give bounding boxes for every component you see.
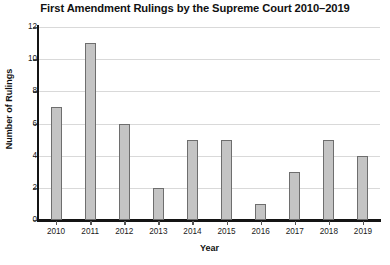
x-tick-mark [56, 221, 57, 225]
y-tick-label: 4 [0, 152, 37, 160]
bar-2010 [51, 107, 62, 220]
bar-2015 [221, 140, 232, 220]
x-tick-mark [295, 221, 296, 225]
bar-2017 [289, 172, 300, 220]
y-tick-label: 12 [0, 23, 37, 31]
y-tick-label: 10 [0, 55, 37, 63]
bar-2014 [187, 140, 198, 220]
bar-2012 [119, 124, 130, 221]
x-axis-label: Year [39, 243, 380, 253]
x-tick-mark [227, 221, 228, 225]
chart-title: First Amendment Rulings by the Supreme C… [0, 2, 390, 14]
plot-area [39, 27, 380, 220]
y-tick-label: 0 [0, 216, 37, 224]
bar-2019 [357, 156, 368, 220]
y-tick-label: 2 [0, 184, 37, 192]
bar-2016 [255, 204, 266, 220]
y-tick-label: 8 [0, 87, 37, 95]
bar-2011 [85, 43, 96, 220]
x-tick-mark [90, 221, 91, 225]
x-tick-mark [329, 221, 330, 225]
bar-chart-figure: First Amendment Rulings by the Supreme C… [0, 0, 390, 265]
bar-2018 [323, 140, 334, 220]
gridline [39, 27, 380, 28]
x-tick-mark [363, 221, 364, 225]
x-tick-mark [158, 221, 159, 225]
x-tick-mark [192, 221, 193, 225]
x-tick-label: 2019 [340, 228, 386, 236]
x-tick-mark [124, 221, 125, 225]
y-tick-label: 6 [0, 120, 37, 128]
bar-2013 [153, 188, 164, 220]
x-tick-mark [261, 221, 262, 225]
